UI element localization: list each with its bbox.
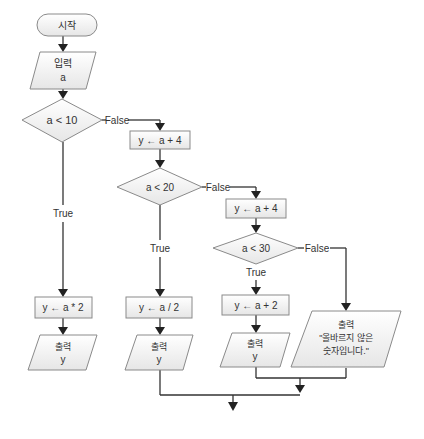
process1-label: y ← a + 4 xyxy=(138,135,182,146)
process-a-div-2-label: y ← a / 2 xyxy=(139,302,179,313)
output-y-middle: 출력 y xyxy=(125,335,193,370)
input-label: 입력 xyxy=(54,57,72,69)
output1-variable: y xyxy=(61,354,66,365)
input-parallelogram: 입력 a xyxy=(30,52,96,89)
process-a-div-2: y ← a / 2 xyxy=(126,297,192,318)
decision1-false-label: False xyxy=(105,115,130,126)
output1-label: 출력 xyxy=(55,341,71,352)
output-y-right: 출력 y xyxy=(220,333,290,367)
decision2-condition: a < 20 xyxy=(146,182,175,193)
output-error-line3: 숫자입니다." xyxy=(323,345,369,356)
decision3-false-label: False xyxy=(305,243,330,254)
decision2-false-label: False xyxy=(206,182,231,193)
output-error-label: 출력 xyxy=(338,319,354,330)
process-a-plus-4-first: y ← a + 4 xyxy=(130,131,190,149)
decision1-condition: a < 10 xyxy=(47,114,78,126)
decision1-true-label: True xyxy=(53,208,74,219)
output-error-line2: "올바르지 않은 xyxy=(319,333,373,343)
output2-label: 출력 xyxy=(151,341,167,352)
flowchart: 시작 입력 a a < 10 False True y ← a + 4 a < … xyxy=(0,0,424,439)
decision3-true-label: True xyxy=(246,267,267,278)
decision-a-lt-10: a < 10 xyxy=(22,99,102,142)
output2-variable: y xyxy=(157,354,162,365)
start-label: 시작 xyxy=(58,20,76,31)
process-a-times-2-label: y ← a * 2 xyxy=(42,302,84,313)
output3-variable: y xyxy=(253,351,258,362)
output3-label: 출력 xyxy=(247,338,263,349)
process-a-plus-2-label: y ← a + 2 xyxy=(234,300,278,311)
decision-a-lt-30: a < 30 xyxy=(213,233,298,264)
process-a-plus-4-second: y ← a + 4 xyxy=(226,199,286,218)
output-y-left: 출력 y xyxy=(28,335,97,370)
output-error-message: 출력 "올바르지 않은 숫자입니다." xyxy=(291,311,401,367)
process2-label: y ← a + 4 xyxy=(234,203,278,214)
process-a-times-2: y ← a * 2 xyxy=(35,297,92,318)
start-terminal: 시작 xyxy=(37,14,97,36)
decision-a-lt-20: a < 20 xyxy=(117,168,202,205)
decision3-condition: a < 30 xyxy=(242,243,271,254)
process-a-plus-2: y ← a + 2 xyxy=(222,295,289,315)
decision2-true-label: True xyxy=(150,243,171,254)
input-variable: a xyxy=(60,72,66,83)
